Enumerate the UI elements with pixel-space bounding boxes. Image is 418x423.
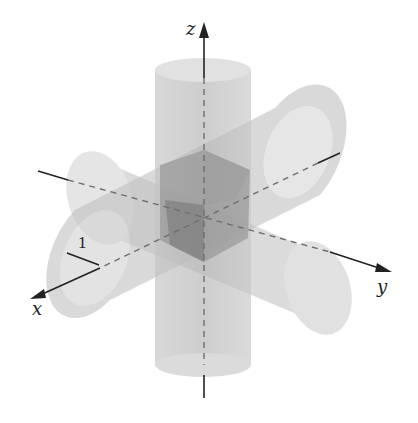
y-axis-label: y — [377, 278, 387, 296]
y-arrow-icon — [375, 263, 392, 272]
diagram-canvas: z y x 1 — [0, 0, 418, 423]
radius-label: 1 — [78, 234, 87, 251]
z-axis-label: z — [186, 20, 195, 38]
x-axis-label: x — [32, 300, 42, 318]
z-arrow-icon — [199, 22, 209, 38]
cylinders-diagram — [0, 0, 418, 423]
y-axis-left — [38, 171, 68, 180]
